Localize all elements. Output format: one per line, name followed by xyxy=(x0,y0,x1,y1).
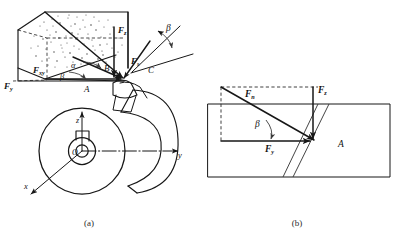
cylinder-mid-outline xyxy=(121,112,161,186)
caption-panel-b: (b) xyxy=(292,218,303,228)
workpiece-cylinder xyxy=(39,90,178,194)
coordinate-axes-a xyxy=(31,112,178,194)
label-fy-b: Fy xyxy=(264,144,274,155)
panel-b-labels: Fn Fz Fy β A xyxy=(244,85,344,155)
resultant-force-vector xyxy=(45,12,123,78)
label-beta-lower-a: β xyxy=(59,71,65,81)
label-point-o: O xyxy=(72,148,78,157)
label-axis-z: z xyxy=(75,116,80,125)
panel-a-labels: Fz Fy Fxy Fs α β β A B C O z y x xyxy=(3,23,182,191)
force-vector-group-a xyxy=(45,12,150,79)
panel-a: Fz Fy Fxy Fs α β β A B C O z y x xyxy=(3,12,193,194)
label-alpha-a: α xyxy=(71,60,76,70)
tool-insert-body xyxy=(113,80,137,98)
label-fxy-a: Fxy xyxy=(32,65,45,76)
cylinder-far-end-outline xyxy=(133,90,178,193)
label-fz-b: Fz xyxy=(317,85,327,96)
axis-x-arrow xyxy=(31,151,82,194)
label-fn-b: Fn xyxy=(244,89,255,100)
cylinder-top-connector xyxy=(121,90,133,112)
fn-force-vector-b xyxy=(221,87,314,140)
label-region-a-b: A xyxy=(337,139,344,149)
label-point-c: C xyxy=(148,65,155,75)
box-speckle-texture xyxy=(30,14,122,67)
label-axis-x: x xyxy=(23,181,28,191)
label-axis-y: y xyxy=(177,150,182,160)
label-beta-b: β xyxy=(254,119,260,129)
figure-root: Fz Fy Fxy Fs α β β A B C O z y x xyxy=(0,0,398,243)
cylinder-bottom-connector xyxy=(128,186,137,193)
label-point-b: B xyxy=(104,63,110,73)
figure-canvas: Fz Fy Fxy Fs α β β A B C O z y x xyxy=(0,0,398,243)
panel-b: Fn Fz Fy β A xyxy=(208,85,390,177)
force-parallelepiped xyxy=(13,12,128,81)
beta-angle-arc-b xyxy=(266,120,272,139)
label-fy-a: Fy xyxy=(3,81,13,92)
label-beta-upper-a: β xyxy=(165,23,171,33)
label-point-a: A xyxy=(83,84,90,94)
label-fz-a: Fz xyxy=(117,25,127,36)
caption-panel-a: (a) xyxy=(84,218,94,228)
beta-angle-construction xyxy=(131,26,193,73)
beta-angle-arc-lower xyxy=(69,72,86,79)
